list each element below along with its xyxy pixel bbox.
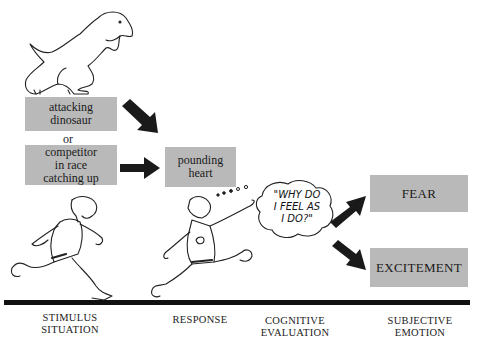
stage-line: SUBJECTIVE	[380, 315, 460, 327]
thought-line: I FEEL AS	[262, 201, 332, 213]
arrows-to-response	[120, 99, 160, 179]
timeline-baseline	[4, 300, 470, 305]
stage-label-cognitive: COGNITIVE EVALUATION	[255, 315, 335, 339]
stage-line: STIMULUS	[30, 312, 110, 324]
stage-label-stimulus: STIMULUS SITUATION	[30, 312, 110, 336]
thought-dots	[217, 185, 248, 196]
arrow-up-right-icon	[330, 196, 366, 228]
stimulus-label-line: dinosaur	[49, 114, 93, 127]
response-box-pounding-heart: pounding heart	[165, 147, 236, 187]
arrow-diagonal-icon	[122, 99, 158, 133]
thought-line: "WHY DO	[262, 189, 332, 201]
emotion-box-fear: FEAR	[370, 175, 468, 212]
dinosaur-illustration	[25, 12, 132, 94]
stimulus-label-line: catching up	[43, 172, 99, 185]
thought-line: I DO?"	[262, 213, 332, 225]
stage-label-subjective: SUBJECTIVE EMOTION	[380, 315, 460, 339]
heart-icon	[196, 237, 204, 244]
emotion-label: FEAR	[402, 187, 436, 200]
stage-line: EMOTION	[380, 327, 460, 339]
thought-bubble-text: "WHY DO I FEEL AS I DO?"	[262, 189, 332, 225]
runner-middle-illustration	[152, 197, 255, 297]
stage-line: COGNITIVE	[255, 315, 335, 327]
stimulus-label-line: in race	[43, 159, 99, 172]
stage-line: EVALUATION	[255, 327, 335, 339]
stimulus-label-line: competitor	[43, 146, 99, 159]
arrow-down-right-icon	[332, 240, 366, 270]
response-label-line: heart	[178, 167, 223, 180]
stage-line: RESPONSE	[160, 314, 240, 326]
stage-label-response: RESPONSE	[160, 314, 240, 326]
emotion-label: EXCITEMENT	[376, 261, 462, 274]
stimulus-box-dinosaur: attacking dinosaur	[25, 97, 117, 131]
runner-left-illustration	[11, 197, 112, 300]
stimulus-box-competitor: competitor in race catching up	[25, 145, 117, 185]
arrow-right-icon	[120, 157, 160, 179]
emotion-box-excitement: EXCITEMENT	[370, 248, 468, 287]
arrows-to-emotions	[330, 196, 366, 270]
stage-line: SITUATION	[30, 324, 110, 336]
